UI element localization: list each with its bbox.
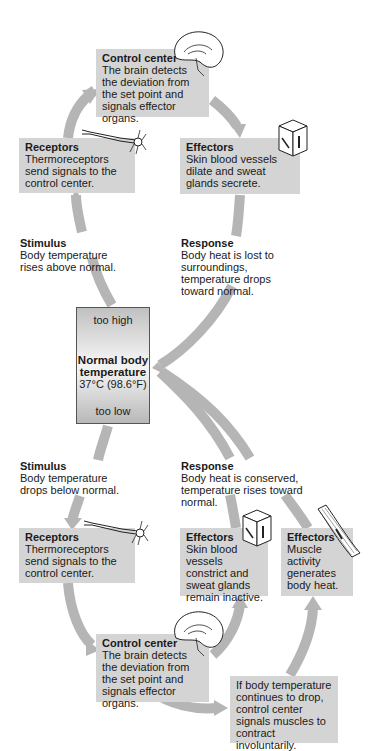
response-upper-text: Body heat is lost to surroundings, tempe… [181, 249, 306, 297]
arrow-shiver-to-muscle [290, 608, 313, 675]
setpoint-title-line2: temperature [77, 366, 149, 378]
shivering-note-text: If body temperature continues to drop, c… [236, 679, 334, 751]
arrow-receptors-to-control-lower [68, 583, 92, 645]
control-center-lower-text: The brain detects the deviation from the… [102, 649, 205, 709]
response-lower: Response Body heat is conserved, tempera… [181, 460, 341, 508]
brain-icon [170, 28, 228, 76]
effectors-skin-lower-text: Skin blood vessels constrict and sweat g… [186, 543, 264, 603]
response-upper: Response Body heat is lost to surroundin… [181, 237, 306, 297]
normal-body-temperature: too high Normal body temperature 37°C (9… [76, 307, 150, 424]
stimulus-upper-text: Body temperature rises above normal. [20, 249, 120, 273]
brain-icon [170, 608, 228, 656]
setpoint-title-line1: Normal body [77, 354, 149, 366]
stimulus-upper: Stimulus Body temperature rises above no… [20, 237, 120, 273]
arrow-effectors-to-response-upper [236, 195, 240, 236]
stimulus-lower-text: Body temperature drops below normal. [20, 472, 120, 496]
effectors-upper-text: Skin blood vessels dilate and sweat glan… [186, 153, 296, 189]
receptors-upper-text: Thermoreceptors send signals to the cont… [25, 153, 131, 189]
response-lower-title: Response [181, 460, 341, 472]
muscle-fiber-icon [314, 503, 362, 561]
neuron-icon [80, 124, 148, 156]
arrow-center-to-stimulus-lower [98, 426, 108, 460]
neuron-icon [82, 515, 150, 547]
skin-block-icon [277, 118, 309, 158]
arrow-response-to-center-upper [160, 286, 232, 365]
response-upper-title: Response [181, 237, 306, 249]
arrow-stimulus-to-receptors-upper [76, 195, 82, 232]
too-low-label: too low [77, 405, 149, 417]
stimulus-lower: Stimulus Body temperature drops below no… [20, 460, 120, 496]
stimulus-upper-title: Stimulus [20, 237, 120, 249]
stimulus-lower-title: Stimulus [20, 460, 120, 472]
skin-block-icon [241, 508, 273, 548]
arrow-control-to-effectors-upper [212, 100, 237, 126]
receptors-lower-text: Thermoreceptors send signals to the cont… [25, 543, 131, 579]
too-high-label: too high [77, 314, 149, 326]
shivering-note: If body temperature continues to drop, c… [230, 676, 338, 743]
setpoint-value: 37°C (98.6°F) [79, 378, 147, 390]
